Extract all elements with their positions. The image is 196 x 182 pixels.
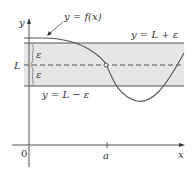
epsilon-band-diagram: y = f(x) y = L + ε y = L − ε L ε ε y x 0… [0, 0, 196, 182]
epsilon-bottom-label: ε [36, 69, 41, 80]
limit-label: L [13, 60, 21, 71]
lower-bound-label: y = L − ε [41, 89, 89, 100]
origin-label: 0 [21, 148, 27, 159]
curve-leader-line [49, 22, 63, 34]
hole-point [104, 63, 108, 67]
y-axis-label: y [18, 17, 25, 28]
a-label: a [103, 150, 109, 161]
upper-bound-label: y = L + ε [130, 29, 178, 40]
x-axis-arrow-icon [179, 143, 185, 147]
curve-label: y = f(x) [63, 11, 102, 22]
x-axis-label: x [178, 149, 184, 160]
y-axis-arrow-icon [27, 18, 31, 24]
epsilon-top-label: ε [36, 49, 41, 60]
